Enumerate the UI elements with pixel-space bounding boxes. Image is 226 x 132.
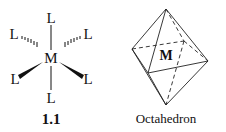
ligand-bottom-label: L — [46, 91, 55, 106]
ligand-upper-right-label: L — [83, 27, 92, 42]
structure-caption: 1.1 — [42, 111, 61, 128]
wedge-bond-lower-left — [18, 62, 43, 79]
ligand-lower-left-label: L — [10, 72, 19, 87]
ligand-top-label: L — [46, 11, 55, 26]
ligand-upper-left-label: L — [9, 27, 18, 42]
ligand-lower-right-label: L — [83, 72, 92, 87]
octahedron-metal-label: M — [159, 48, 172, 64]
metal-label: M — [44, 51, 57, 66]
hashed-bond-upper-left — [22, 36, 37, 47]
hashed-bond-upper-right — [65, 36, 80, 47]
octahedron-caption: Octahedron — [136, 111, 197, 127]
wedge-bond-lower-right — [59, 62, 84, 79]
